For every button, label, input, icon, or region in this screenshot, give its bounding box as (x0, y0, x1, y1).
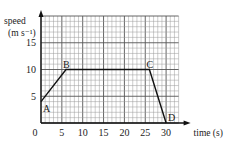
point-label-a: A (43, 103, 51, 114)
y-tick-label: 10 (26, 64, 36, 75)
speed-time-graph: 05101520253051015time (s)speed(m s⁻¹)ABC… (0, 0, 242, 145)
x-tick-label: 0 (33, 127, 38, 138)
point-label-d: D (168, 112, 175, 123)
x-tick-label: 10 (78, 127, 88, 138)
x-tick-label: 5 (59, 127, 64, 138)
x-tick-label: 25 (140, 127, 150, 138)
x-tick-label: 20 (119, 127, 129, 138)
point-label-c: C (146, 59, 153, 70)
x-tick-label: 30 (161, 127, 171, 138)
y-axis-arrow-icon (39, 10, 44, 17)
y-axis-unit: (m s⁻¹) (8, 28, 36, 39)
y-tick-label: 5 (31, 91, 36, 102)
x-axis-arrow-icon (184, 121, 191, 126)
y-tick-label: 15 (26, 37, 36, 48)
y-axis-label: speed (4, 16, 26, 26)
x-axis-label: time (s) (194, 128, 223, 139)
x-tick-label: 15 (99, 127, 109, 138)
point-label-b: B (63, 59, 70, 70)
